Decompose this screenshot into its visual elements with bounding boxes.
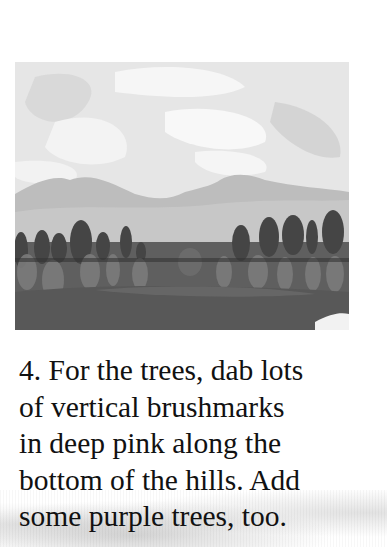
painting-artwork (15, 62, 349, 330)
instruction-line-3: in deep pink along the (19, 425, 379, 462)
instruction-line-4: bottom of the hills. Add (19, 462, 379, 499)
instruction-line-1: 4. For the trees, dab lots (19, 352, 379, 389)
instruction-line-2: of vertical brushmarks (19, 389, 379, 426)
landscape-painting-illustration (15, 62, 349, 330)
instruction-line-5: some purple trees, too. (19, 498, 379, 535)
instruction-text: 4. For the trees, dab lots of vertical b… (19, 352, 379, 535)
